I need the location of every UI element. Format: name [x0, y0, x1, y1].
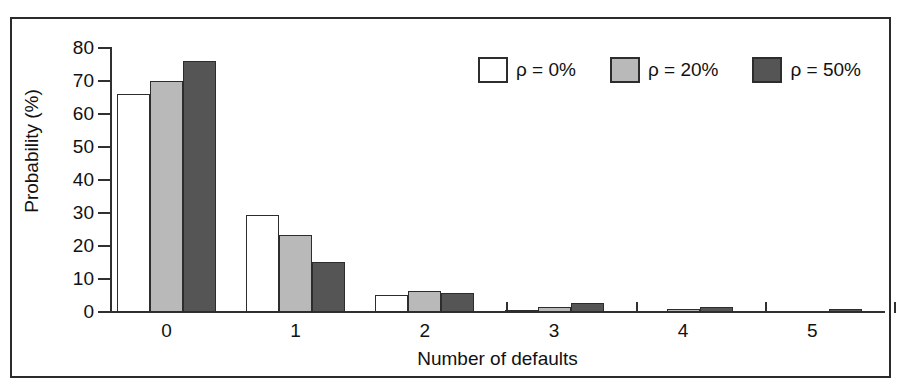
bar-0-series-0: [117, 94, 150, 312]
y-tick-60: [98, 113, 110, 115]
y-tick-70: [98, 80, 110, 82]
bar-2-series-1: [408, 291, 441, 312]
bar-0-series-2: [183, 61, 216, 312]
y-tick-label-60: 60: [48, 104, 94, 123]
y-tick-label-50: 50: [48, 137, 94, 156]
bar-5-series-2: [829, 309, 862, 312]
y-tick-30: [98, 212, 110, 214]
bar-1-series-0: [246, 215, 279, 312]
y-tick-80: [98, 47, 110, 49]
x-tick-label-5: 5: [782, 320, 842, 342]
y-tick-label-80: 80: [48, 38, 94, 57]
y-tick-label-70: 70: [48, 71, 94, 90]
y-tick-label-30: 30: [48, 203, 94, 222]
bar-3-series-1: [538, 307, 571, 312]
y-tick-10: [98, 278, 110, 280]
x-tick-label-2: 2: [395, 320, 455, 342]
y-tick-20: [98, 245, 110, 247]
y-tick-label-10: 10: [48, 269, 94, 288]
x-tick-label-4: 4: [653, 320, 713, 342]
bar-2-series-0: [375, 295, 408, 312]
plot-area: [110, 48, 885, 312]
y-tick-0: [98, 311, 110, 313]
bar-1-series-2: [312, 262, 345, 312]
x-axis-title: Number of defaults: [110, 348, 885, 370]
bar-3-series-2: [571, 303, 604, 312]
x-tick-5: [894, 302, 896, 313]
y-tick-40: [98, 179, 110, 181]
x-tick-label-1: 1: [266, 320, 326, 342]
y-tick-50: [98, 146, 110, 148]
y-tick-label-20: 20: [48, 236, 94, 255]
bar-3-series-0: [505, 310, 538, 312]
bar-2-series-2: [441, 293, 474, 312]
bar-1-series-1: [279, 235, 312, 312]
y-tick-labels: 80706050403020100: [44, 0, 94, 389]
bar-0-series-1: [150, 81, 183, 312]
x-tick-label-0: 0: [137, 320, 197, 342]
bar-4-series-1: [667, 309, 700, 312]
y-tick-label-40: 40: [48, 170, 94, 189]
y-tick-label-0: 0: [48, 302, 94, 321]
x-tick-label-3: 3: [524, 320, 584, 342]
y-axis-title: Probability (%): [21, 41, 43, 261]
bar-4-series-2: [700, 307, 733, 312]
